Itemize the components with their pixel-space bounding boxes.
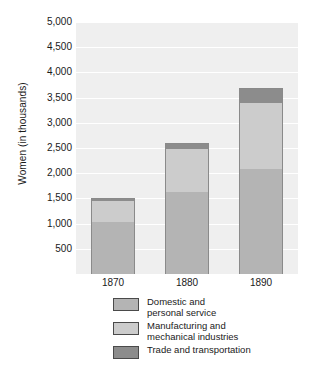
legend-swatch <box>113 298 139 311</box>
y-axis-tick-label: 5,000 <box>26 17 72 27</box>
y-axis-tick-label: 2,000 <box>26 168 72 178</box>
y-axis-tick-labels: 5,0004,5004,0003,5003,0002,5002,0001,500… <box>24 22 72 274</box>
gridline <box>76 22 298 23</box>
x-axis-tick-labels: 187018801890 <box>76 277 298 291</box>
bar-stack <box>165 143 209 274</box>
bar-segment <box>165 149 209 192</box>
y-axis-tick-label: 3,000 <box>26 118 72 128</box>
x-axis-tick-label: 1880 <box>157 277 217 289</box>
legend-label: Trade and transportation <box>147 345 251 356</box>
plot-area <box>76 22 298 274</box>
x-axis-tick-label: 1870 <box>83 277 143 289</box>
legend-swatch <box>113 346 139 359</box>
gridline <box>76 47 298 48</box>
legend-swatch <box>113 322 139 335</box>
bar-segment <box>239 88 283 103</box>
bar-segment <box>91 201 135 222</box>
bar-segment <box>239 169 283 274</box>
y-axis-tick-label: 2,500 <box>26 143 72 153</box>
legend-item: Manufacturing and mechanical industries <box>113 321 313 342</box>
y-axis-tick-label: 4,000 <box>26 67 72 77</box>
y-axis-tick-label: 3,500 <box>26 93 72 103</box>
bar-top-edge <box>239 88 283 89</box>
bar-stack <box>91 198 135 274</box>
bar-top-edge <box>91 198 135 199</box>
x-axis-tick-label: 1890 <box>231 277 291 289</box>
legend-item: Domestic and personal service <box>113 297 313 318</box>
legend-item: Trade and transportation <box>113 345 313 359</box>
y-axis-tick-label: 1,500 <box>26 193 72 203</box>
y-axis-tick-label: 4,500 <box>26 42 72 52</box>
stacked-bar-chart-figure: Women (in thousands) 5,0004,5004,0003,50… <box>0 0 319 376</box>
bar-segment <box>165 192 209 274</box>
bar-top-edge <box>165 143 209 144</box>
legend-label: Domestic and personal service <box>147 297 216 318</box>
gridline <box>76 72 298 73</box>
y-axis-tick-label: 500 <box>26 244 72 254</box>
bar-stack <box>239 88 283 274</box>
bar-segment <box>239 103 283 170</box>
legend-label: Manufacturing and mechanical industries <box>147 321 238 342</box>
bar-segment <box>91 222 135 274</box>
chart-legend: Domestic and personal serviceManufacturi… <box>113 297 313 362</box>
y-axis-tick-label: 1,000 <box>26 219 72 229</box>
